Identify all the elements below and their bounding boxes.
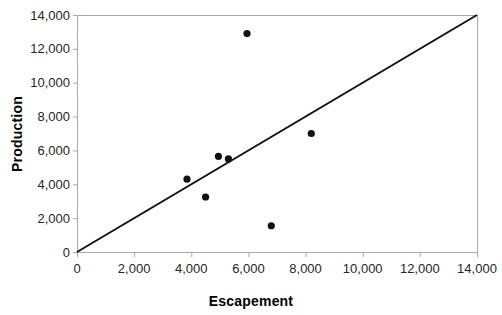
y-axis-tick-label: 8,000 (37, 109, 70, 124)
data-point (215, 153, 222, 160)
scatter-plot: 02,0004,0006,0008,00010,00012,00014,0000… (0, 0, 502, 315)
y-axis-title: Production (9, 16, 25, 253)
x-axis-tick-label: 10,000 (343, 261, 383, 276)
x-axis-tick-label: 2,000 (118, 261, 151, 276)
y-axis-tick-label: 6,000 (37, 143, 70, 158)
data-point (243, 30, 250, 37)
replacement-line (77, 15, 477, 252)
x-axis-title: Escapement (0, 293, 502, 309)
data-point (268, 222, 275, 229)
data-point (308, 130, 315, 137)
x-axis-tick-label: 0 (73, 261, 80, 276)
data-point (202, 193, 209, 200)
y-axis-tick-label: 12,000 (30, 41, 70, 56)
scatter-chart-figure: 02,0004,0006,0008,00010,00012,00014,0000… (0, 0, 502, 315)
data-point (225, 155, 232, 162)
x-axis-tick-label: 8,000 (289, 261, 322, 276)
x-axis-tick-label: 4,000 (175, 261, 208, 276)
x-axis-tick-label: 14,000 (457, 261, 497, 276)
y-axis-tick-label: 0 (63, 245, 70, 260)
y-axis-tick-label: 4,000 (37, 177, 70, 192)
data-point (183, 176, 190, 183)
y-axis-tick-label: 14,000 (30, 8, 70, 23)
x-axis-tick-label: 6,000 (232, 261, 265, 276)
x-axis-tick-label: 12,000 (400, 261, 440, 276)
y-axis-tick-label: 2,000 (37, 211, 70, 226)
y-axis-tick-label: 10,000 (30, 75, 70, 90)
